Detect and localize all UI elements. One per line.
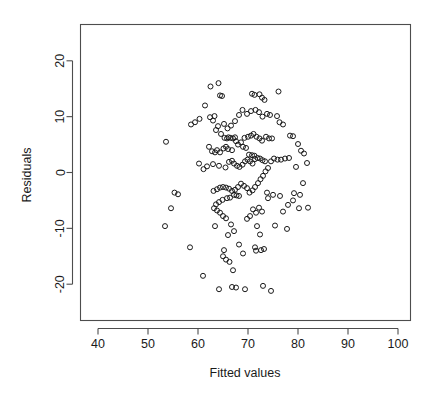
- x-tick-label: 100: [388, 337, 409, 351]
- y-tick-label: 20: [54, 54, 68, 68]
- y-axis-title: Residuals: [20, 148, 34, 203]
- y-tick-label: 0: [54, 169, 68, 176]
- x-tick-label: 60: [191, 337, 205, 351]
- x-tick-label: 70: [241, 337, 255, 351]
- x-tick-label: 50: [141, 337, 155, 351]
- x-tick-label: 40: [91, 337, 105, 351]
- x-tick-label: 90: [341, 337, 355, 351]
- y-tick-label: -20: [54, 275, 68, 293]
- x-axis-title: Fitted values: [210, 366, 281, 380]
- residual-plot-page: 405060708090100 -20-1001020 Fitted value…: [0, 0, 432, 396]
- y-tick-label: 10: [54, 110, 68, 124]
- scatter-plot-canvas: 405060708090100 -20-1001020 Fitted value…: [0, 0, 432, 396]
- y-tick-label: -10: [54, 219, 68, 237]
- x-tick-label: 80: [291, 337, 305, 351]
